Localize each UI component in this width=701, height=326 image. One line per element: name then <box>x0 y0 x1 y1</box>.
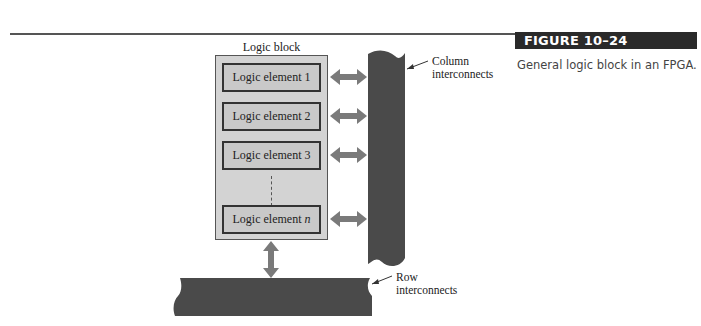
column-interconnect-bar <box>368 50 405 266</box>
row-interconnect-bar <box>174 278 372 316</box>
column-interconnects-label: Column interconnects <box>432 55 493 81</box>
row-callout-line-1: Row <box>396 271 457 284</box>
double-arrow-icons <box>263 69 367 278</box>
column-callout-line-1: Column <box>432 55 493 68</box>
interconnect-graphics <box>0 0 701 326</box>
row-interconnects-label: Row interconnects <box>396 271 457 297</box>
column-callout-line-2: interconnects <box>432 68 493 81</box>
row-callout-line-2: interconnects <box>396 284 457 297</box>
